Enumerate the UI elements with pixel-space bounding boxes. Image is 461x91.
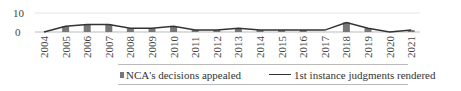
- x-tick-2015: 2015: [276, 36, 288, 59]
- x-tick-2016: 2016: [297, 36, 309, 59]
- x-tick-2007: 2007: [103, 36, 115, 59]
- y-tick-0: 0: [15, 26, 21, 38]
- y-tick-10: 10: [13, 7, 25, 19]
- x-tick-2012: 2012: [211, 36, 223, 58]
- chart-legend: NCA's decisions appealed 1st instance ju…: [118, 64, 408, 85]
- x-tick-2021: 2021: [405, 36, 417, 58]
- legend-bar-label: NCA's decisions appealed: [126, 69, 241, 81]
- x-tick-2004: 2004: [38, 36, 50, 59]
- line-series-1st-instance-judgments: [44, 23, 411, 33]
- x-tick-2013: 2013: [232, 36, 244, 59]
- legend-item-bar: NCA's decisions appealed: [118, 69, 241, 81]
- x-tick-2020: 2020: [384, 36, 396, 59]
- x-tick-2019: 2019: [362, 36, 374, 59]
- legend-item-line: 1st instance judgments rendered: [241, 69, 435, 81]
- bar-2006: [84, 24, 91, 32]
- x-tick-2011: 2011: [189, 36, 201, 58]
- x-tick-2018: 2018: [340, 36, 352, 59]
- x-tick-2010: 2010: [168, 36, 180, 59]
- x-axis-labels: 2004200520062007200820092010201120122013…: [38, 36, 417, 59]
- legend-line-swatch-icon: [269, 74, 291, 75]
- x-tick-2005: 2005: [60, 36, 72, 59]
- x-tick-2009: 2009: [146, 36, 158, 59]
- legend-bar-swatch-icon: [120, 72, 124, 78]
- x-tick-2008: 2008: [124, 36, 136, 59]
- x-tick-2006: 2006: [81, 36, 93, 59]
- chart-plot-area: 10 0 20042005200620072008200920102011201…: [0, 0, 461, 60]
- x-tick-2017: 2017: [319, 36, 331, 59]
- x-tick-2014: 2014: [254, 36, 266, 59]
- legend-line-label: 1st instance judgments rendered: [294, 69, 435, 81]
